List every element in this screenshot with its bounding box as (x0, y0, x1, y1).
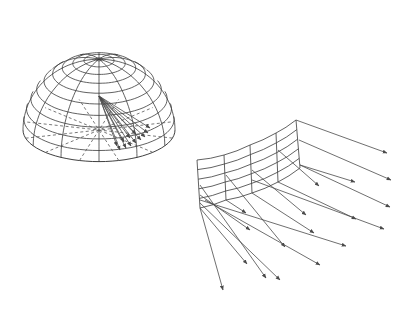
patch-arrow (296, 120, 387, 153)
patch-arrow (200, 208, 247, 264)
hemisphere-wireframe (23, 53, 175, 162)
patch-column-line (250, 145, 252, 193)
patch-arrow (200, 203, 280, 280)
diagram-canvas (0, 0, 411, 309)
patch-arrow (278, 150, 319, 186)
patch-arrow (252, 170, 306, 215)
figure-svg (0, 0, 411, 309)
patch-arrow (300, 165, 355, 182)
patch-arrow (278, 182, 356, 219)
patch-arrow (252, 193, 314, 233)
patch-arrow (252, 180, 384, 229)
patch-arrow (300, 165, 390, 207)
surface-normal-arrows (200, 120, 391, 290)
patch-column-line (197, 160, 200, 208)
patch-column-line (224, 155, 226, 200)
surface-patch-grid (197, 120, 300, 208)
patch-arrow (200, 208, 223, 290)
fan-arrow (99, 96, 130, 138)
patch-arrow (299, 140, 391, 180)
patch-column-line (276, 133, 278, 182)
